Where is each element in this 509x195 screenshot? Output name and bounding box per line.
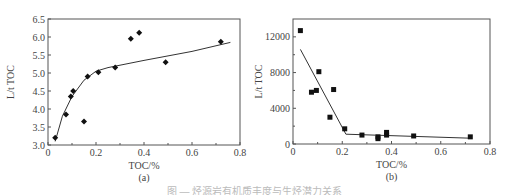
y-tick-label: 4.5 bbox=[33, 86, 46, 97]
data-point bbox=[316, 69, 321, 74]
data-point bbox=[342, 126, 347, 131]
data-point bbox=[163, 59, 169, 65]
plot-frame bbox=[48, 19, 240, 145]
x-tick-label: 0.8 bbox=[234, 147, 247, 158]
y-tick-label: 8000 bbox=[270, 67, 290, 78]
fit-line bbox=[300, 49, 470, 138]
y-axis-label: L/t TOC bbox=[253, 64, 264, 98]
fit-line bbox=[55, 42, 230, 141]
x-axis-label: TOC/% bbox=[129, 160, 160, 171]
y-tick-label: 3.0 bbox=[33, 140, 46, 151]
y-tick-label: 0 bbox=[285, 139, 290, 150]
x-tick-label: 0.4 bbox=[138, 147, 151, 158]
y-axis-label: L/t TOC bbox=[5, 65, 16, 99]
y-tick-label: 5.0 bbox=[33, 68, 46, 79]
x-tick-label: 0.4 bbox=[385, 146, 398, 157]
y-tick-label: 4.0 bbox=[33, 104, 46, 115]
x-tick-label: 0.2 bbox=[336, 146, 349, 157]
data-point bbox=[359, 133, 364, 138]
plot-frame bbox=[293, 19, 490, 144]
panel-a: 00.20.40.60.83.03.54.04.55.05.56.06.5TOC… bbox=[5, 14, 246, 184]
panel-b: 0.20.40.60.8040008000120000TOC/%(b)L/t T… bbox=[253, 19, 496, 183]
data-point bbox=[309, 90, 314, 95]
data-point bbox=[375, 134, 380, 139]
x-tick-label: 0.6 bbox=[186, 147, 199, 158]
x-tick-label: 0.8 bbox=[484, 146, 497, 157]
panel-label: (a) bbox=[138, 172, 149, 183]
y-tick-label: 4000 bbox=[270, 103, 290, 114]
y-tick-label: 5.5 bbox=[33, 50, 46, 61]
y-tick-label: 3.5 bbox=[33, 122, 46, 133]
data-point bbox=[81, 119, 87, 125]
panel-label: (b) bbox=[386, 171, 398, 183]
data-point bbox=[298, 28, 303, 33]
y-tick-label: 6.0 bbox=[33, 32, 46, 43]
data-point bbox=[331, 87, 336, 92]
data-point bbox=[68, 93, 74, 99]
figure: 00.20.40.60.83.03.54.04.55.05.56.06.5TOC… bbox=[0, 0, 509, 183]
x-tick-label: 0.6 bbox=[435, 146, 448, 157]
figure-caption: 图 — 烃源岩有机质丰度与生烃潜力关系 bbox=[0, 183, 509, 195]
x-axis-label: TOC/% bbox=[376, 159, 407, 170]
x-tick-label: 0.2 bbox=[90, 147, 103, 158]
data-point bbox=[384, 130, 389, 135]
data-point bbox=[468, 134, 473, 139]
data-point bbox=[314, 88, 319, 93]
data-point bbox=[128, 36, 134, 42]
x-tick-label: 0 bbox=[46, 147, 51, 158]
data-point bbox=[136, 30, 142, 36]
data-point bbox=[70, 88, 76, 94]
data-point bbox=[411, 133, 416, 138]
y-tick-label: 6.5 bbox=[33, 14, 46, 25]
y-tick-label: 12000 bbox=[265, 31, 290, 42]
svg-text:0: 0 bbox=[291, 146, 296, 157]
data-point bbox=[327, 115, 332, 120]
